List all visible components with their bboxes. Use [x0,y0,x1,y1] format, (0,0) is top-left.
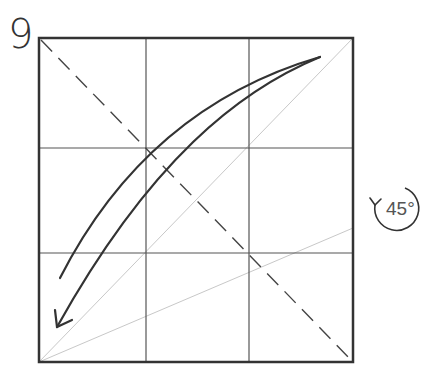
guide-shallow-line [39,228,353,362]
fold-diagram: 9 45° [0,0,425,389]
step-number: 9 [8,14,33,54]
diagram-canvas [0,0,425,389]
valley-fold-line [41,40,352,361]
rotation-label: 45° [386,198,415,220]
